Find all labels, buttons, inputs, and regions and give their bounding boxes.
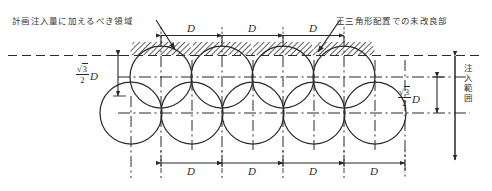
left-frac-denominator: 2 <box>76 75 89 84</box>
circle-lower-1 <box>100 82 162 144</box>
right-frac-denominator: 2 <box>398 98 411 107</box>
right-frac-numerator: √3 <box>398 88 411 98</box>
dim-top-d-1: D <box>187 22 195 34</box>
figure-canvas: 計画注入量に加えるべき領域 正三角形配置での未改良部 注入範囲 D D D D … <box>0 0 492 191</box>
dim-left-sqrt3-over-2-d: √3 2 D <box>76 65 98 84</box>
right-frac-d-symbol: D <box>411 90 420 105</box>
dim-right-sqrt3-over-2-d: √3 2 D <box>398 88 420 107</box>
label-injection-range: 注入範囲 <box>462 64 471 104</box>
left-frac-numerator: √3 <box>76 65 89 75</box>
dim-bottom-d-1: D <box>187 165 195 177</box>
dim-top-d-2: D <box>248 22 256 34</box>
left-vertical-dimension <box>113 56 126 97</box>
label-planned-injection-region: 計画注入量に加えるべき領域 <box>12 14 133 26</box>
bottom-dimension-chain <box>161 150 405 173</box>
right-vertical-dimension <box>432 77 444 113</box>
dim-top-d-3: D <box>309 22 317 34</box>
dim-bottom-d-3: D <box>309 165 317 177</box>
dim-bottom-d-4: D <box>370 165 378 177</box>
dim-bottom-d-2: D <box>248 165 256 177</box>
left-frac-d-symbol: D <box>89 67 98 82</box>
vertical-centerline-group <box>131 36 405 178</box>
label-unimproved-triangular-section: 正三角形配置での未改良部 <box>336 14 448 26</box>
